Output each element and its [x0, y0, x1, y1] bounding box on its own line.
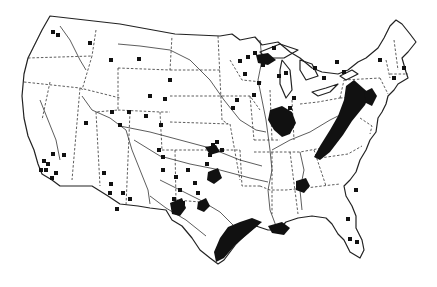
location-marker	[118, 123, 122, 127]
location-marker	[243, 72, 247, 76]
location-marker	[346, 217, 350, 221]
location-marker	[157, 148, 161, 152]
location-marker	[220, 148, 224, 152]
location-marker	[174, 175, 178, 179]
location-marker	[196, 191, 200, 195]
location-marker	[84, 121, 88, 125]
us-map	[0, 0, 437, 287]
location-marker	[121, 191, 125, 195]
location-marker	[277, 74, 281, 78]
location-marker	[392, 76, 396, 80]
location-marker	[378, 58, 382, 62]
location-marker	[235, 98, 239, 102]
location-marker	[253, 51, 257, 55]
location-marker	[181, 201, 185, 205]
location-marker	[272, 46, 276, 50]
location-marker	[51, 30, 55, 34]
location-marker	[231, 106, 235, 110]
location-marker	[261, 63, 265, 67]
location-marker	[161, 155, 165, 159]
location-marker	[288, 106, 292, 110]
location-marker	[128, 197, 132, 201]
location-marker	[355, 240, 359, 244]
location-marker	[292, 96, 296, 100]
location-marker	[127, 110, 131, 114]
location-marker	[342, 70, 346, 74]
location-marker	[193, 181, 197, 185]
location-marker	[238, 59, 242, 63]
location-marker	[354, 188, 358, 192]
location-marker	[335, 60, 339, 64]
location-marker	[51, 152, 55, 156]
location-marker	[252, 93, 256, 97]
location-marker	[161, 168, 165, 172]
location-marker	[208, 153, 212, 157]
location-marker	[46, 162, 50, 166]
location-marker	[115, 207, 119, 211]
location-marker	[42, 159, 46, 163]
location-marker	[102, 171, 106, 175]
location-marker	[108, 191, 112, 195]
location-marker	[172, 197, 176, 201]
location-marker	[178, 188, 182, 192]
location-marker	[168, 78, 172, 82]
location-marker	[137, 57, 141, 61]
location-marker	[109, 182, 113, 186]
location-marker	[54, 171, 58, 175]
location-marker	[205, 162, 209, 166]
location-marker	[211, 143, 215, 147]
location-marker	[163, 97, 167, 101]
location-marker	[159, 123, 163, 127]
location-marker	[56, 33, 60, 37]
location-marker	[348, 237, 352, 241]
location-marker	[144, 114, 148, 118]
location-marker	[284, 71, 288, 75]
location-marker	[257, 81, 261, 85]
location-marker	[109, 58, 113, 62]
location-marker	[62, 153, 66, 157]
location-marker	[148, 94, 152, 98]
location-marker	[402, 66, 406, 70]
location-marker	[186, 168, 190, 172]
location-marker	[50, 176, 54, 180]
location-marker	[215, 140, 219, 144]
location-marker	[246, 55, 250, 59]
location-marker	[110, 110, 114, 114]
location-marker	[313, 66, 317, 70]
location-marker	[44, 168, 48, 172]
location-marker	[39, 168, 43, 172]
location-marker	[88, 41, 92, 45]
location-marker	[322, 76, 326, 80]
